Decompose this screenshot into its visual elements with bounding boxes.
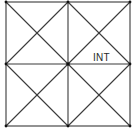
grid-diagram: INT xyxy=(0,0,133,136)
node-right-mid xyxy=(129,63,132,66)
node-bottom-left xyxy=(5,125,8,128)
node-top-mid xyxy=(67,1,70,4)
node-center xyxy=(66,62,70,66)
node-bottom-right xyxy=(129,125,132,128)
node-left-mid xyxy=(5,63,8,66)
node-top-left xyxy=(5,1,8,4)
int-label: INT xyxy=(93,52,110,63)
node-top-right xyxy=(129,1,132,4)
node-bottom-mid xyxy=(67,125,70,128)
